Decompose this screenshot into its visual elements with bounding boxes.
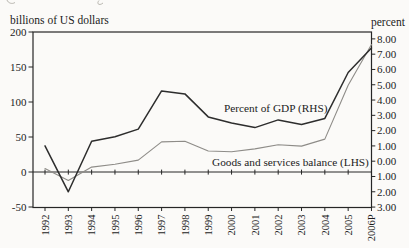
x-axis-year-label: 2003 <box>296 215 307 236</box>
right-axis-tick-label: 6.00 <box>377 63 397 75</box>
x-axis-year-label: 1993 <box>63 215 74 236</box>
right-axis-tick-label: 0.00 <box>377 155 397 167</box>
x-axis-year-label: 2006P <box>366 214 377 241</box>
x-axis-year-label: 1996 <box>133 215 144 236</box>
x-axis-year-label: 1998 <box>180 215 191 236</box>
left-axis-tick-label: 200 <box>10 26 27 38</box>
x-axis-year-label: 1999 <box>203 215 214 236</box>
x-axis-year-label: 2005 <box>343 215 354 236</box>
right-axis-tick-label: 2.00 <box>377 124 397 136</box>
right-axis-tick-label: 4.00 <box>377 94 397 106</box>
x-axis-year-label: 1994 <box>86 214 97 236</box>
right-axis-tick-label: 1.00 <box>377 140 397 152</box>
x-axis-year-label: 2000 <box>226 214 237 235</box>
right-axis-tick-label: 3.00 <box>377 109 397 121</box>
x-axis-year-label: 2001 <box>250 215 261 236</box>
x-axis-year-label: 2004 <box>320 214 331 236</box>
x-axis-year-label: 1997 <box>156 215 167 236</box>
left-axis-tick-label: 100 <box>10 96 27 108</box>
right-axis-tick-label: 3.00 <box>377 201 397 213</box>
x-axis-year-label: 2002 <box>273 215 284 236</box>
right-axis-tick-label: 1.00 <box>377 170 397 182</box>
right-axis-tick-label: 8.00 <box>377 33 397 45</box>
cut-off-text-remnant-icon <box>7 0 15 3</box>
chart-canvas: 200150100500-508.007.006.005.004.003.002… <box>0 0 409 248</box>
left-axis-tick-label: -50 <box>12 201 27 213</box>
right-axis-tick-label: 2.00 <box>377 186 397 198</box>
cut-off-text-remnant-icon <box>98 1 103 5</box>
x-axis-year-label: 1992 <box>40 215 51 236</box>
right-axis-tick-label: 5.00 <box>377 79 397 91</box>
left-axis-tick-label: 150 <box>10 61 27 73</box>
series-line-goods-services-balance <box>45 45 371 181</box>
x-axis-year-label: 1995 <box>110 215 121 236</box>
right-axis-tick-label: 7.00 <box>377 48 397 60</box>
chart-figure: billions of US dollars percent Percent o… <box>0 0 409 248</box>
left-axis-tick-label: 50 <box>16 131 28 143</box>
left-axis-tick-label: 0 <box>21 166 27 178</box>
